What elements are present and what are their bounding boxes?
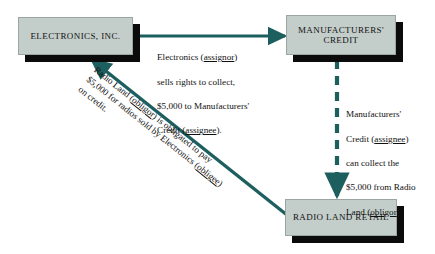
caption-collection-line2: Credit (assignee) <box>346 133 435 145</box>
caption-collection-line5: Land (obligor). <box>346 206 435 218</box>
node-manufacturers-credit-line2: CREDIT <box>324 35 359 45</box>
assignment-relationship-diagram: ELECTRONICS, INC. MANUFACTURERS' CREDIT … <box>0 0 435 254</box>
node-manufacturers-credit-line1: MANUFACTURERS' <box>298 25 384 35</box>
caption-assignment-line1: Electronics (assignor) <box>157 51 292 63</box>
caption-collection-line4: $5,000 from Radio <box>346 181 435 193</box>
caption-collection-line1: Manufacturers' <box>346 108 435 120</box>
caption-collection: Manufacturers' Credit (assignee) can col… <box>346 96 435 230</box>
node-manufacturers-credit: MANUFACTURERS' CREDIT <box>286 15 396 55</box>
caption-assignment-line2: sells rights to collect, <box>157 76 292 88</box>
caption-collection-line3: can collect the <box>346 157 435 169</box>
node-manufacturers-credit-label: MANUFACTURERS' CREDIT <box>298 25 384 46</box>
node-electronics: ELECTRONICS, INC. <box>18 17 133 55</box>
caption-assignment-line3: $5,000 to Manufacturers' <box>157 100 292 112</box>
node-electronics-label: ELECTRONICS, INC. <box>30 31 120 41</box>
